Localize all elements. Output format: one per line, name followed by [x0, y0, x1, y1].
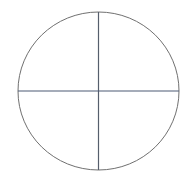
circle-quadrant-diagram: [0, 0, 190, 182]
figure-canvas: [0, 0, 190, 182]
